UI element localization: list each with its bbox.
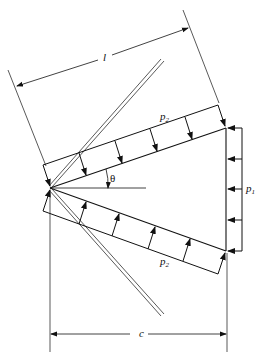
label-c: c — [139, 327, 144, 339]
label-p2-upper: p2 — [159, 110, 170, 124]
wedge — [50, 128, 226, 251]
svg-text:p2: p2 — [159, 110, 170, 124]
label-p1: p1 — [245, 182, 255, 196]
base-pressure-band — [228, 128, 242, 251]
wedge-diagram: l c θ p2 p2 p1 — [0, 0, 261, 355]
dimension-l — [8, 10, 219, 166]
plate-edges — [49, 59, 164, 316]
upper-pressure-band — [43, 105, 225, 186]
label-l: l — [103, 51, 106, 63]
label-p2-lower: p2 — [159, 255, 170, 269]
label-theta: θ — [110, 172, 115, 184]
theta-arc — [106, 169, 108, 188]
lower-pressure-band — [43, 190, 225, 274]
svg-text:p2: p2 — [159, 255, 170, 269]
svg-text:p1: p1 — [245, 182, 255, 196]
